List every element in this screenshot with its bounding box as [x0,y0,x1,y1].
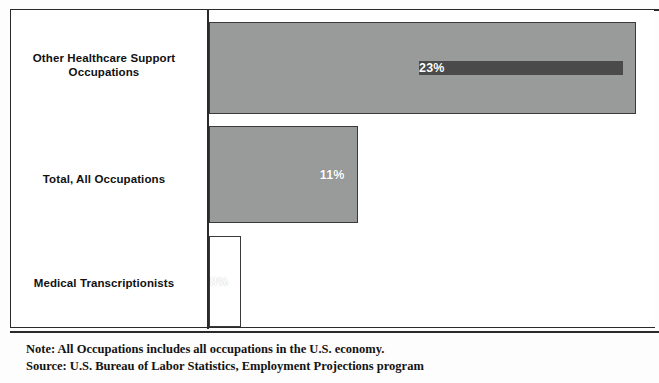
bar-value-label: 11% [320,168,345,182]
category-label-line1: Total, All Occupations [11,172,197,186]
chart-page: Other Healthcare Support Occupations Tot… [0,0,659,383]
category-label-column: Other Healthcare Support Occupations Tot… [12,11,205,327]
notes-divider [10,331,659,333]
category-label-total-all-occupations: Total, All Occupations [11,172,197,186]
note-text: Note: All Occupations includes all occup… [26,341,641,358]
plot-area: 23% 11% 8% [209,11,655,327]
bar-other-healthcare-support-occupations: 23% [209,22,636,114]
bar-total-all-occupations: 11% [209,126,358,223]
bar-value-label: 23% [419,61,623,75]
category-label-line1: Medical Transcriptionists [11,276,197,290]
bar-medical-transcriptionists: 8% [209,236,241,327]
notes-block: Note: All Occupations includes all occup… [26,341,641,375]
category-label-other-healthcare-support-occupations: Other Healthcare Support Occupations [11,51,197,79]
category-label-medical-transcriptionists: Medical Transcriptionists [11,276,197,290]
source-text: Source: U.S. Bureau of Labor Statistics,… [26,358,641,375]
category-label-line1: Other Healthcare Support [11,51,197,65]
category-label-line2: Occupations [11,65,197,79]
bar-value-label: 8% [210,275,228,289]
